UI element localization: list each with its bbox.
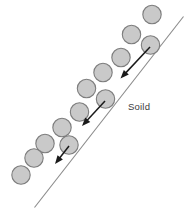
solid-label: Soild (128, 101, 150, 112)
particle-circles-group (12, 5, 161, 184)
particle-circle-c7 (53, 118, 71, 136)
solid-boundary-group (35, 17, 184, 208)
particle-circle-c1 (143, 5, 161, 23)
particle-circle-c5 (77, 79, 95, 97)
particle-circle-c9 (25, 149, 43, 167)
particle-circle-b1 (141, 36, 159, 54)
particle-circle-c10 (12, 166, 30, 184)
particle-circle-c4 (94, 63, 112, 81)
particle-circle-c3 (112, 48, 130, 66)
solid-boundary-line (35, 17, 184, 208)
particle-circle-b3 (60, 136, 78, 154)
diagram-svg: Soild (0, 0, 192, 213)
figure-canvas: Soild (0, 0, 192, 213)
figure-labels-group: Soild (128, 101, 150, 112)
particle-circle-b2 (96, 90, 114, 108)
particle-circle-c2 (122, 25, 140, 43)
